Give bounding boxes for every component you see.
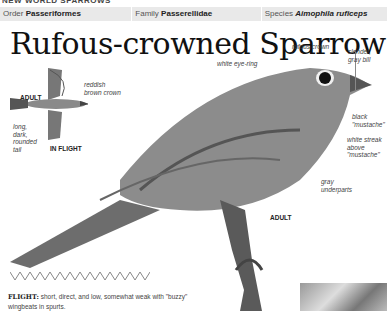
taxonomy-species: Species Aimophila ruficeps: [262, 7, 387, 21]
main-caption-adult: ADULT: [270, 214, 292, 221]
label-black-mustache: black "mustache": [352, 113, 387, 128]
taxonomy-order: Order Passeriformes: [0, 7, 132, 21]
label-white-streak: white streak above "mustache": [347, 136, 387, 159]
taxonomy-bar: Order Passeriformes Family Passerellidae…: [0, 7, 387, 21]
flight-description: FLIGHT: short, direct, and low, somewhat…: [8, 292, 208, 311]
label-slender-gray-bill: slender, gray bill: [348, 48, 384, 63]
flight-pattern-zigzag-icon: [10, 270, 150, 282]
label-white-eye-ring: white eye-ring: [217, 60, 257, 68]
taxonomy-family: Family Passerellidae: [132, 7, 261, 21]
label-gray-underparts: gray underparts: [321, 178, 361, 193]
label-rufous-crown: rufous crown: [292, 43, 329, 51]
running-header: NEW WORLD SPARROWS: [2, 0, 111, 5]
habitat-photo-thumbnail: [300, 283, 387, 311]
